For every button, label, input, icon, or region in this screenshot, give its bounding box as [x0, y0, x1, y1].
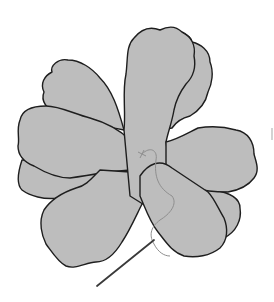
- flower-illustration: [0, 0, 274, 302]
- flower: [18, 27, 257, 267]
